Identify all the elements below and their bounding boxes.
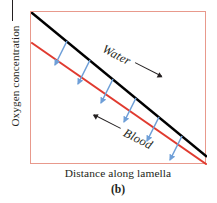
figure-caption: (b) [30, 183, 206, 196]
countercurrent-exchange-figure: Oxygen concentration [0, 0, 217, 203]
plot-canvas [31, 12, 207, 165]
plot-frame: Water Blood [30, 11, 206, 164]
diffusion-arrow-icon [55, 41, 67, 65]
y-axis-label: Oxygen concentration [6, 0, 24, 136]
diffusion-arrow-icon [101, 79, 113, 103]
diffusion-arrow-icon [78, 60, 90, 84]
diffusion-arrow-icon [124, 98, 136, 122]
x-axis-label: Distance along lamella [30, 167, 206, 179]
up-arrow-icon [12, 0, 13, 21]
y-axis-label-text: Oxygen concentration [9, 25, 21, 126]
